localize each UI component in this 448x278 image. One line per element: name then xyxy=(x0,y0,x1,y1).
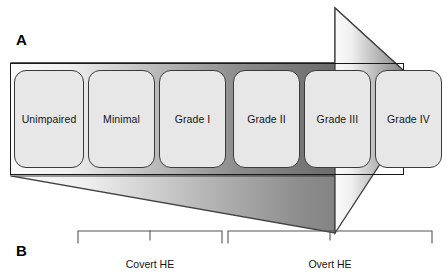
bracket-caption-covert: Covert HE xyxy=(78,258,222,270)
figure-container: A Unimpaired Minimal Gra xyxy=(0,0,448,278)
bracket-layer xyxy=(0,0,448,278)
bracket-caption-overt: Overt HE xyxy=(228,258,432,270)
